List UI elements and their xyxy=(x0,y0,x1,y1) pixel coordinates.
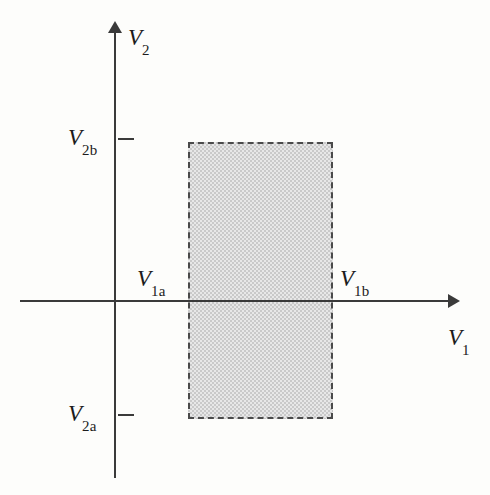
annotation-label-v1a: V1a xyxy=(137,267,166,295)
tick-label-v2a: V2a xyxy=(68,402,97,430)
voltage-region-figure: V2 V1 V2b V2a V1a V1b xyxy=(0,0,490,495)
right-arrow-icon xyxy=(448,294,460,308)
tick-label-v2b-subscript: 2b xyxy=(82,142,98,158)
x-axis-label-subscript: 1 xyxy=(462,342,470,358)
x-axis-label: V1 xyxy=(448,326,470,354)
annotation-label-v1a-base: V xyxy=(137,266,151,291)
annotation-label-v1b: V1b xyxy=(340,267,370,295)
up-arrow-icon xyxy=(108,21,122,33)
x-axis-line-over-region xyxy=(188,300,333,302)
y-axis-tick-v2a xyxy=(118,414,134,416)
y-axis-label: V2 xyxy=(128,26,150,54)
y-axis-label-subscript: 2 xyxy=(142,42,150,58)
tick-label-v2a-base: V xyxy=(68,401,82,426)
y-axis-label-base: V xyxy=(128,25,142,50)
annotation-label-v1b-base: V xyxy=(340,266,354,291)
y-axis-line xyxy=(114,30,116,478)
annotation-label-v1b-subscript: 1b xyxy=(354,283,370,299)
y-axis-tick-v2b xyxy=(118,138,134,140)
feasible-region-rectangle xyxy=(188,142,333,419)
tick-label-v2a-subscript: 2a xyxy=(82,418,97,434)
annotation-label-v1a-subscript: 1a xyxy=(151,283,166,299)
tick-label-v2b-base: V xyxy=(68,125,82,150)
tick-label-v2b: V2b xyxy=(68,126,98,154)
x-axis-label-base: V xyxy=(448,325,462,350)
